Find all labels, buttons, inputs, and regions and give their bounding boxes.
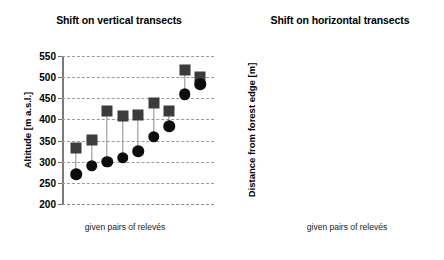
data-point-circle: [179, 88, 191, 100]
gridline: [62, 98, 214, 99]
panel-horizontal-transects: Shift on horizontal transects Distance f…: [230, 0, 444, 260]
data-point-circle: [101, 156, 113, 168]
data-point-circle: [163, 120, 175, 132]
y-axis-tick-label: 400: [39, 114, 56, 125]
gridline: [62, 77, 214, 78]
gridline: [62, 183, 214, 184]
y-axis-label-distance: Distance from forest edge [m]: [246, 54, 257, 206]
data-point-circle: [86, 160, 98, 172]
gridline: [62, 56, 214, 57]
y-axis-tick: [58, 56, 62, 57]
data-point-circle: [194, 79, 206, 91]
data-point-square: [179, 65, 190, 76]
data-point-square: [164, 106, 175, 117]
gridline: [62, 162, 214, 163]
panel-title-vertical: Shift on vertical transects: [0, 14, 222, 26]
y-axis-tick: [58, 77, 62, 78]
x-axis-label-horizontal: given pairs of relevés: [230, 222, 444, 232]
gridline: [62, 204, 214, 205]
data-point-circle: [117, 152, 129, 164]
data-point-square: [148, 97, 159, 108]
y-axis-tick: [58, 183, 62, 184]
y-axis-tick-label: 500: [39, 72, 56, 83]
data-point-square: [117, 111, 128, 122]
y-axis-tick: [58, 119, 62, 120]
pair-connector-line: [106, 111, 107, 161]
data-point-circle: [148, 131, 160, 143]
data-point-circle: [132, 145, 144, 157]
y-axis-tick: [58, 204, 62, 205]
y-axis-tick: [58, 141, 62, 142]
y-axis-tick: [58, 98, 62, 99]
y-axis-tick-label: 200: [39, 199, 56, 210]
x-axis-label-vertical: given pairs of relevés: [0, 222, 222, 232]
panel-title-horizontal: Shift on horizontal transects: [230, 14, 444, 26]
y-axis-tick-label: 250: [39, 177, 56, 188]
y-axis-tick: [58, 162, 62, 163]
data-point-square: [71, 142, 82, 153]
data-point-square: [133, 110, 144, 121]
y-axis-tick-label: 300: [39, 156, 56, 167]
y-axis-tick-label: 450: [39, 93, 56, 104]
figure-two-panel-scatter: Shift on vertical transects Altitude [m …: [0, 0, 444, 260]
plot-area-vertical: 200250300350400450500550: [62, 56, 214, 204]
data-point-circle: [70, 169, 82, 181]
data-point-square: [102, 106, 113, 117]
y-axis-label-altitude: Altitude [m a.s.l.]: [22, 56, 33, 204]
y-axis-tick-label: 350: [39, 135, 56, 146]
y-axis-line-vertical: [62, 56, 64, 204]
panel-vertical-transects: Shift on vertical transects Altitude [m …: [0, 0, 222, 260]
data-point-square: [86, 135, 97, 146]
y-axis-tick-label: 550: [39, 51, 56, 62]
